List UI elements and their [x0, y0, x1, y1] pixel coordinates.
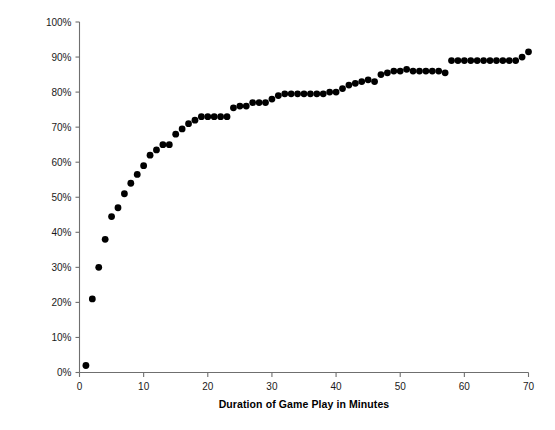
data-point — [256, 99, 263, 106]
x-axis-label: Duration of Game Play in Minutes — [79, 398, 529, 410]
data-point — [281, 90, 288, 97]
x-tick-label: 60 — [459, 381, 471, 392]
data-point — [320, 90, 327, 97]
data-point — [474, 57, 481, 64]
y-tick-label: 50% — [51, 192, 71, 203]
y-tick-label: 0% — [57, 367, 72, 378]
data-point — [275, 92, 282, 99]
data-point — [172, 131, 179, 138]
data-point — [378, 71, 385, 78]
data-point — [435, 68, 442, 75]
x-tick-label: 10 — [138, 381, 150, 392]
data-point — [153, 147, 160, 154]
y-tick-label: 100% — [46, 17, 72, 28]
data-point — [506, 57, 513, 64]
y-tick-label: 70% — [51, 122, 71, 133]
data-point — [371, 78, 378, 85]
chart-figure: Cumulative Percentage of Games with All … — [0, 0, 555, 430]
y-tick-label: 10% — [51, 332, 71, 343]
data-point — [313, 90, 320, 97]
data-point — [102, 236, 109, 243]
data-point-group — [83, 48, 532, 369]
x-tick-label: 50 — [395, 381, 407, 392]
data-point — [185, 120, 192, 127]
data-point — [384, 69, 391, 76]
data-point — [211, 113, 218, 120]
data-point — [403, 66, 410, 73]
data-point — [147, 152, 154, 159]
data-point — [448, 57, 455, 64]
data-point — [204, 113, 211, 120]
data-point — [159, 141, 166, 148]
data-point — [390, 68, 397, 75]
data-point — [134, 171, 141, 178]
data-point — [480, 57, 487, 64]
data-point — [333, 89, 340, 96]
data-point — [140, 162, 147, 169]
data-point — [410, 68, 417, 75]
data-point — [262, 99, 269, 106]
x-axis-ticks: 010203040506070 — [77, 373, 535, 392]
data-point — [397, 68, 404, 75]
data-point — [346, 82, 353, 89]
y-tick-label: 90% — [51, 52, 71, 63]
y-tick-label: 80% — [51, 87, 71, 98]
data-point — [326, 89, 333, 96]
data-point — [442, 69, 449, 76]
data-point — [198, 113, 205, 120]
data-point — [499, 57, 506, 64]
data-point — [294, 90, 301, 97]
data-point — [127, 180, 134, 187]
y-tick-label: 40% — [51, 227, 71, 238]
data-point — [461, 57, 468, 64]
data-point — [416, 68, 423, 75]
data-point — [339, 85, 346, 92]
data-point — [487, 57, 494, 64]
y-tick-label: 60% — [51, 157, 71, 168]
data-point — [217, 113, 224, 120]
data-point — [224, 113, 231, 120]
data-point — [108, 213, 115, 220]
data-point — [230, 104, 237, 111]
data-point — [358, 78, 365, 85]
data-point — [192, 117, 199, 124]
data-point — [243, 103, 250, 110]
data-point — [519, 54, 526, 61]
data-point — [288, 90, 295, 97]
data-point — [352, 80, 359, 87]
data-point — [525, 48, 532, 55]
data-point — [115, 204, 122, 211]
data-point — [429, 68, 436, 75]
data-point — [89, 295, 96, 302]
data-point — [307, 90, 314, 97]
data-point — [512, 57, 519, 64]
data-point — [269, 96, 276, 103]
y-axis-ticks: 0%10%20%30%40%50%60%70%80%90%100% — [46, 17, 80, 379]
y-tick-label: 30% — [51, 262, 71, 273]
y-tick-label: 20% — [51, 297, 71, 308]
data-point — [83, 362, 90, 369]
x-tick-label: 0 — [77, 381, 83, 392]
x-tick-label: 20 — [202, 381, 214, 392]
x-tick-label: 70 — [523, 381, 535, 392]
data-point — [455, 57, 462, 64]
data-point — [467, 57, 474, 64]
x-tick-label: 30 — [266, 381, 278, 392]
data-point — [301, 90, 308, 97]
data-point — [365, 76, 372, 83]
scatter-plot: 0%10%20%30%40%50%60%70%80%90%100% 010203… — [0, 0, 555, 430]
axis-group — [80, 22, 529, 373]
x-tick-label: 40 — [331, 381, 343, 392]
data-point — [179, 125, 186, 132]
data-point — [236, 103, 243, 110]
data-point — [422, 68, 429, 75]
data-point — [121, 190, 128, 197]
data-point — [249, 99, 256, 106]
data-point — [95, 264, 102, 271]
data-point — [166, 141, 173, 148]
data-point — [493, 57, 500, 64]
